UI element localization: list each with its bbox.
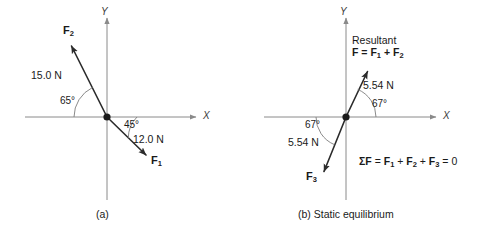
panel-b-magnitude-f3: 5.54 N (288, 136, 319, 148)
eq-sub-2: 2 (413, 160, 417, 169)
panel-b-magnitude-resultant: 5.54 N (363, 79, 394, 91)
panel-a-magnitude-f2: 15.0 N (31, 69, 62, 81)
panel-a-label-f1-main: F (151, 154, 158, 166)
panel-b-label-f3: F3 (306, 170, 317, 183)
panel-b-angle-resultant: 67° (372, 98, 387, 110)
panel-b-origin-point (342, 113, 349, 120)
panel-b-angle-f3: 67° (305, 119, 320, 131)
panel-a-angle-f1: 45° (124, 119, 139, 131)
panel-b-resultant-eq-sub2: 2 (399, 51, 403, 60)
panel-b-resultant-eq-rest: = F (358, 46, 376, 58)
panel-b-resultant-eq-plus: + F (381, 46, 399, 58)
panel-b-label-f3-main: F (306, 170, 313, 182)
panel-a-label-f2-sub: 2 (70, 29, 74, 38)
panel-b-vector-f3 (324, 117, 346, 172)
panel-b-equilibrium-equation: ΣF = F1 + F2 + F3 = 0 (359, 155, 457, 168)
panel-a-vector-f2 (72, 46, 108, 117)
eq-equals-1: = (372, 155, 384, 167)
panel-a-magnitude-f1: 12.0 N (133, 133, 164, 145)
panel-a-graphics (25, 18, 196, 200)
panel-a-label-f2-main: F (63, 24, 70, 36)
panel-a-caption: (a) (96, 208, 109, 220)
panel-b-resultant-annotation: Resultant F = F1 + F2 (352, 34, 404, 59)
panel-b-graphics (264, 18, 436, 200)
panel-b-resultant-eq-sub1: 1 (377, 51, 381, 60)
panel-b-resultant-title: Resultant (352, 34, 404, 46)
panel-a-label-f1: F1 (151, 154, 162, 167)
panel-a-x-axis-label: X (203, 110, 210, 122)
panel-a-label-f1-sub: 1 (158, 159, 162, 168)
panel-b-label-f3-sub: 3 (313, 175, 317, 184)
eq-sub-1: 1 (390, 160, 394, 169)
panel-a-origin-point (103, 113, 110, 120)
eq-plus-2: + (417, 155, 429, 167)
eq-sub-3: 3 (435, 160, 439, 169)
panel-b-resultant-equation: F = F1 + F2 (352, 46, 404, 59)
panel-a-y-axis-label: Y (101, 6, 108, 18)
physics-figure: X Y F2 15.0 N 65° 45° 12.0 N F1 (a) X Y … (0, 0, 482, 243)
eq-equals-zero: = 0 (439, 155, 457, 167)
panel-a-label-f2: F2 (63, 24, 74, 37)
panel-b-y-axis-label: Y (340, 6, 347, 18)
panel-a-angle-arc-65 (74, 88, 93, 118)
eq-plus-1: + (394, 155, 406, 167)
panel-a-angle-f2: 65° (60, 95, 75, 107)
panel-b-caption: (b) Static equilibrium (298, 208, 394, 220)
panel-b-x-axis-label: X (443, 110, 450, 122)
eq-f2: F (406, 155, 412, 167)
